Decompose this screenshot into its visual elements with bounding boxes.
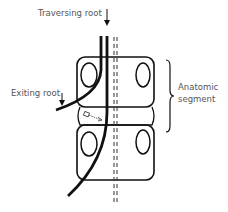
traversing-root-arrow-icon (104, 9, 110, 26)
upper-right-pedicle (136, 63, 150, 87)
lower-right-pedicle (136, 130, 150, 154)
upper-left-pedicle (81, 63, 97, 87)
lower-left-pedicle (81, 132, 97, 156)
anatomic-segment-label-line1: Anatomic (178, 82, 218, 93)
anatomic-segment-brace (166, 60, 174, 132)
disc-probe-icon (83, 111, 102, 121)
upper-vertebra (77, 57, 154, 107)
anatomic-segment-label-line2: segment (178, 94, 215, 105)
intervertebral-disc (78, 107, 154, 125)
spine-segment-diagram (0, 0, 228, 212)
exiting-root-label: Exiting root (11, 88, 60, 99)
exiting-root (56, 36, 101, 110)
traversing-root-label: Traversing root (38, 8, 102, 19)
